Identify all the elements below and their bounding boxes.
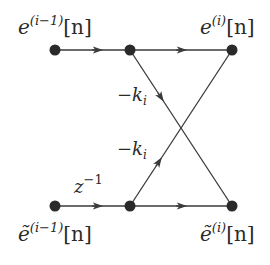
lattice-stage-diagram: e(i−1)[n] e(i)[n] ẽ(i−1)[n] ẽ(i)[n] z−1 … [0, 0, 270, 265]
label-arg: [n] [63, 15, 92, 39]
label-gain-up: −ki [117, 138, 147, 162]
label-input-top: e(i−1)[n] [18, 13, 92, 39]
node-branch-bottom [125, 201, 136, 212]
label-delay: z−1 [73, 172, 103, 197]
node-output-bottom [227, 201, 238, 212]
node-input-bottom [50, 201, 61, 212]
node-branch-top [125, 45, 136, 56]
label-output-bottom: ẽ(i)[n] [200, 220, 255, 246]
label-output-top: e(i)[n] [200, 13, 255, 39]
label-gain-down: −ki [117, 84, 147, 108]
node-input-top [50, 45, 61, 56]
node-output-top [227, 45, 238, 56]
label-input-bottom: ẽ(i−1)[n] [18, 220, 92, 246]
